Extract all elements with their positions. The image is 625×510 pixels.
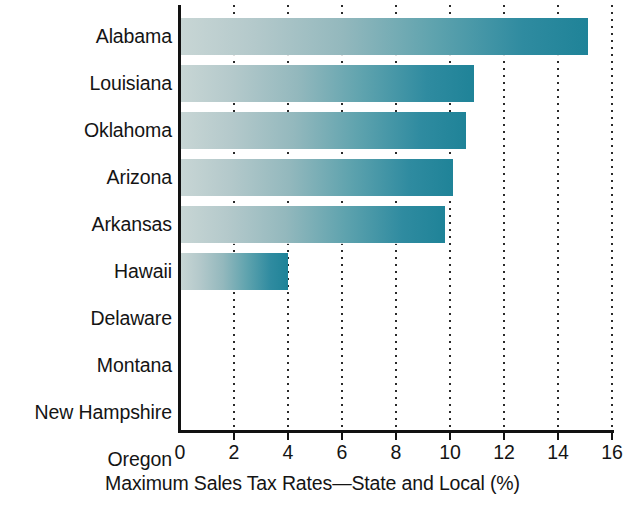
- gridline: [557, 5, 559, 430]
- y-axis-category-label: Oklahoma: [0, 121, 172, 141]
- bar: [180, 112, 466, 149]
- bar: [180, 253, 288, 290]
- y-axis-category-label: Oregon: [0, 450, 172, 470]
- x-axis-tickmark: [503, 431, 505, 440]
- x-axis-tickmark: [395, 431, 397, 440]
- gridline: [611, 5, 613, 430]
- y-axis-category-label: Arizona: [0, 168, 172, 188]
- x-axis-tickmark: [233, 431, 235, 440]
- y-axis-category-labels: AlabamaLouisianaOklahomaArizonaArkansasH…: [0, 5, 172, 430]
- chart-caption: Maximum Sales Tax Rates—State and Local …: [0, 474, 625, 494]
- x-axis-tick-label: 14: [547, 443, 569, 463]
- x-axis-tick-label: 8: [391, 443, 402, 463]
- x-axis-tick-label: 10: [439, 443, 461, 463]
- x-axis-tickmark: [287, 431, 289, 440]
- y-axis-category-label: Hawaii: [0, 262, 172, 282]
- plot-area: 0246810121416: [180, 5, 612, 430]
- x-axis-tickmark: [557, 431, 559, 440]
- x-axis-tick-label: 0: [175, 443, 186, 463]
- y-axis-category-label: New Hampshire: [0, 403, 172, 423]
- x-axis-tickmark: [449, 431, 451, 440]
- y-axis-category-label: Delaware: [0, 309, 172, 329]
- x-axis-tickmark: [611, 431, 613, 440]
- x-axis-tick-label: 4: [283, 443, 294, 463]
- y-axis-category-label: Arkansas: [0, 215, 172, 235]
- bar: [180, 65, 474, 102]
- x-axis-tickmark: [341, 431, 343, 440]
- x-axis-tick-label: 16: [601, 443, 623, 463]
- y-axis-category-label: Louisiana: [0, 74, 172, 94]
- gridline: [503, 5, 505, 430]
- x-axis-tick-label: 2: [229, 443, 240, 463]
- bar: [180, 159, 453, 196]
- bar: [180, 206, 445, 243]
- x-axis-tick-label: 12: [493, 443, 515, 463]
- bar-chart: AlabamaLouisianaOklahomaArizonaArkansasH…: [0, 0, 625, 510]
- y-axis-category-label: Alabama: [0, 27, 172, 47]
- y-axis-line: [178, 5, 181, 432]
- x-axis-tick-label: 6: [337, 443, 348, 463]
- y-axis-category-label: Montana: [0, 356, 172, 376]
- bar: [180, 18, 588, 55]
